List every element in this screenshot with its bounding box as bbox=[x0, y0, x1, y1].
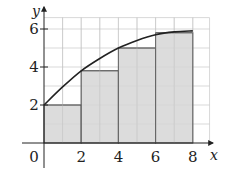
y-tick-label: 6 bbox=[29, 20, 39, 38]
x-axis-label: x bbox=[210, 147, 218, 163]
x-tick-label: 8 bbox=[188, 148, 198, 166]
y-axis-label: y bbox=[31, 3, 41, 19]
x-tick-label: 2 bbox=[76, 148, 86, 166]
y-tick-label: 4 bbox=[29, 58, 39, 76]
rectangles bbox=[44, 18, 193, 143]
chart-container: 24682460xy bbox=[0, 0, 235, 177]
x-tick-label: 6 bbox=[151, 148, 161, 166]
y-tick-label: 2 bbox=[29, 96, 39, 114]
origin-label: 0 bbox=[29, 148, 39, 166]
chart-svg: 24682460xy bbox=[0, 0, 235, 177]
x-tick-label: 4 bbox=[114, 148, 124, 166]
